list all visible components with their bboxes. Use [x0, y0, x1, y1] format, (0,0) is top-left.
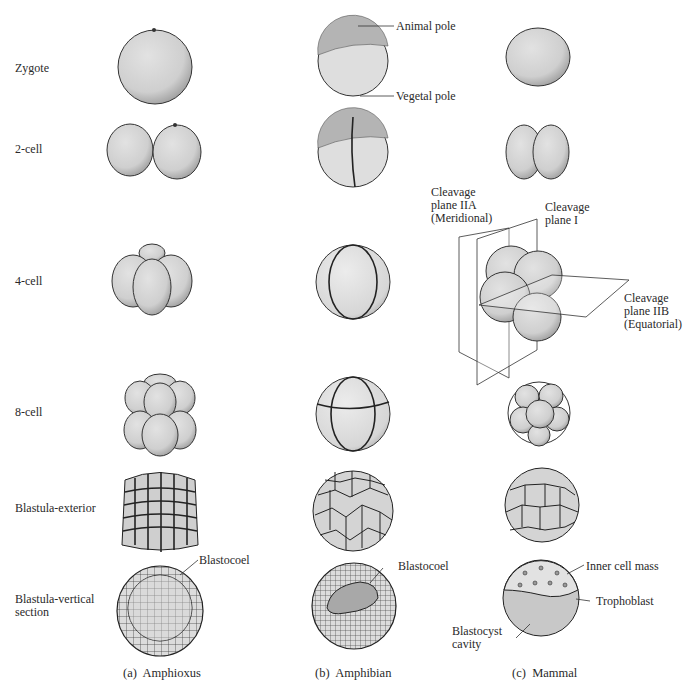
annotation-plane-I-line1: Cleavage: [545, 200, 590, 214]
row-label-2-cell: 2-cell: [15, 142, 42, 156]
annotation-trophoblast: Trophoblast: [596, 594, 654, 608]
annotation-animal-pole: Animal pole: [396, 19, 456, 33]
annotation-plane-IIB-line1: Cleavage: [624, 291, 669, 305]
row-label-blastula-vertical: Blastula-vertical: [15, 592, 94, 606]
amphioxus-blastula-section: [117, 560, 203, 656]
mammal-blastocyst: [503, 560, 590, 638]
caption-amphioxus: (a) Amphioxus: [123, 666, 201, 681]
caption-mammal: (c) Mammal: [512, 666, 577, 681]
annotation-blastocyst-cavity-line1: Blastocyst: [452, 624, 502, 638]
annotation-inner-cell-mass: Inner cell mass: [586, 559, 659, 573]
annotation-plane-IIB-line3: (Equatorial): [624, 317, 682, 331]
row-label-zygote: Zygote: [15, 61, 49, 75]
mammal-zygote: [506, 28, 570, 86]
annotation-plane-I-line2: plane I: [545, 213, 578, 227]
amphioxus-2-cell: [107, 123, 201, 179]
amphibian-zygote: [318, 15, 394, 96]
caption-amphibian: (b) Amphibian: [315, 666, 391, 681]
amphioxus-4-cell: [112, 244, 192, 315]
row-label-blastula-exterior: Blastula-exterior: [15, 501, 96, 515]
annotation-plane-IIA-line1: Cleavage: [431, 185, 476, 199]
amphibian-8-cell: [316, 377, 390, 451]
annotation-plane-IIB-line2: plane IIB: [624, 304, 669, 318]
caption-name: Amphioxus: [142, 666, 200, 680]
annotation-vegetal-pole: Vegetal pole: [396, 89, 456, 103]
mammal-2-cell: [506, 125, 569, 179]
mammal-blastula-exterior: [505, 468, 579, 542]
annotation-plane-IIA-line2: plane IIA: [431, 198, 477, 212]
caption-letter: (b): [315, 666, 330, 680]
caption-name: Mammal: [532, 666, 577, 680]
caption-letter: (c): [512, 666, 526, 680]
amphibian-2-cell: [318, 108, 388, 187]
annotation-blastocoel-amphioxus: Blastocoel: [199, 553, 250, 567]
mammal-8-cell: [508, 382, 570, 446]
row-label-section: section: [15, 605, 49, 619]
caption-letter: (a): [123, 666, 137, 680]
annotation-blastocoel-amphibian: Blastocoel: [398, 559, 449, 573]
annotation-blastocyst-cavity-line2: cavity: [452, 637, 481, 651]
amphioxus-zygote: [118, 28, 192, 104]
row-label-8-cell: 8-cell: [15, 405, 42, 419]
amphioxus-blastula-exterior: [122, 472, 198, 552]
embryo-illustrations: [0, 0, 694, 691]
amphibian-blastula-exterior: [313, 471, 393, 551]
row-label-4-cell: 4-cell: [15, 274, 42, 288]
mammal-4-cell-cleavage-planes: [459, 219, 629, 385]
amphioxus-8-cell: [124, 374, 196, 456]
amphibian-4-cell: [316, 245, 390, 319]
caption-name: Amphibian: [335, 666, 391, 680]
annotation-plane-IIA-line3: (Meridional): [431, 211, 492, 225]
amphibian-blastula-section: [312, 563, 396, 649]
